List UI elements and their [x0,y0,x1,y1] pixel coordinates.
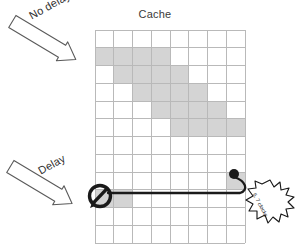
diagram-svg [0,0,302,251]
no-delay-arrow-icon [7,12,82,69]
figure-canvas: Cache No delay Delay 6, 7 clocks [0,0,302,251]
wrap-origin-dot [229,169,239,179]
clocks-starburst-icon [246,180,294,223]
page-title: Cache [139,8,172,20]
